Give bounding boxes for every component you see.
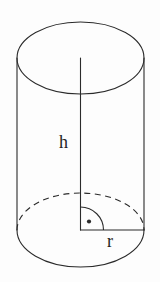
- cylinder-drawing-canvas: [0, 0, 160, 282]
- right-angle-marker-dot: [87, 219, 91, 223]
- right-angle-marker-arc: [81, 207, 104, 230]
- radius-label: r: [107, 232, 113, 250]
- bottom-rim-front-arc: [17, 230, 144, 267]
- height-label: h: [59, 133, 68, 151]
- cylinder-diagram: h r: [0, 0, 160, 282]
